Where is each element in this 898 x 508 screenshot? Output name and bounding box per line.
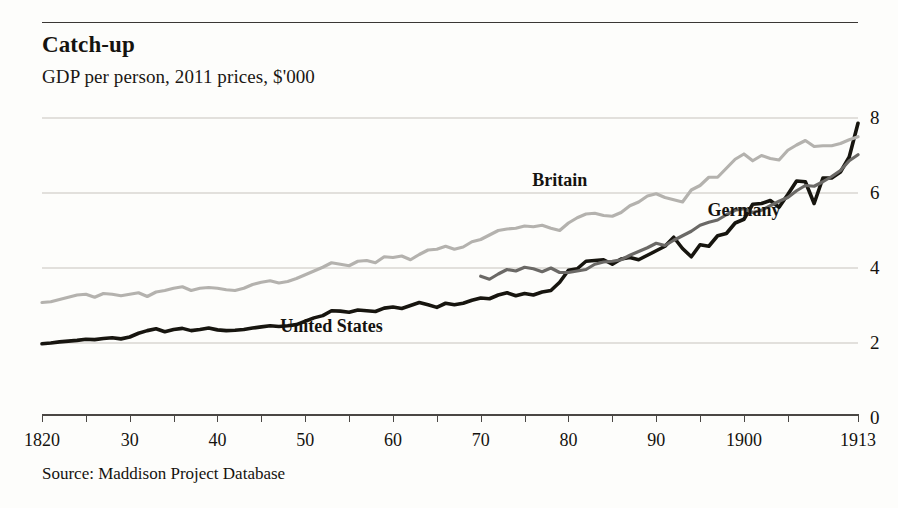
x-axis-tick-label: 70: [472, 430, 490, 451]
x-axis-tick-label: 1900: [726, 430, 762, 451]
y-axis-tick-label: 6: [870, 182, 898, 204]
gridlines: [42, 118, 858, 343]
source-note: Source: Maddison Project Database: [42, 464, 285, 484]
series-line-united-states: [42, 123, 858, 344]
x-axis-minor-tick: [174, 414, 175, 422]
chart-subtitle: GDP per person, 2011 prices, $'000: [42, 66, 315, 88]
x-axis-minor-tick: [612, 414, 613, 422]
x-axis-tick-mark: [656, 414, 657, 422]
top-rule: [42, 22, 858, 23]
x-axis-tick-mark: [305, 414, 306, 422]
y-axis-tick-label: 4: [870, 257, 898, 279]
x-axis-tick-mark: [217, 414, 218, 422]
plot-area: [42, 118, 858, 418]
x-axis-tick-label: 60: [384, 430, 402, 451]
series-label-britain: Britain: [532, 169, 587, 190]
x-axis-minor-tick: [86, 414, 87, 422]
x-axis-tick-label: 40: [208, 430, 226, 451]
x-axis-tick-label: 1913: [840, 430, 876, 451]
x-axis-tick-mark: [130, 414, 131, 422]
x-axis-minor-tick: [349, 414, 350, 422]
x-axis-minor-tick: [261, 414, 262, 422]
page-title: Catch-up: [42, 32, 135, 58]
x-axis-tick-label: 50: [296, 430, 314, 451]
x-axis-tick-label: 1820: [24, 430, 60, 451]
plot-svg: [42, 118, 858, 418]
y-axis-tick-label: 2: [870, 332, 898, 354]
x-axis-tick-mark: [42, 414, 43, 422]
x-axis-ticks: 18203040506070809019001913: [0, 414, 898, 424]
x-axis-tick-mark: [858, 414, 859, 422]
x-axis-tick-label: 30: [121, 430, 139, 451]
x-axis-tick-mark: [568, 414, 569, 422]
x-axis-tick-mark: [481, 414, 482, 422]
x-axis-minor-tick: [437, 414, 438, 422]
x-axis-tick-mark: [393, 414, 394, 422]
y-axis-tick-label: 8: [870, 107, 898, 129]
x-axis-minor-tick: [700, 414, 701, 422]
x-axis-tick-mark: [744, 414, 745, 422]
x-axis-minor-tick: [525, 414, 526, 422]
chart-page: Catch-up GDP per person, 2011 prices, $'…: [0, 0, 898, 508]
series-label-united-states: United States: [280, 316, 383, 337]
series-lines: [42, 123, 858, 344]
x-axis-minor-tick: [788, 414, 789, 422]
x-axis-tick-label: 90: [647, 430, 665, 451]
x-axis-tick-label: 80: [559, 430, 577, 451]
series-label-germany: Germany: [707, 199, 780, 220]
